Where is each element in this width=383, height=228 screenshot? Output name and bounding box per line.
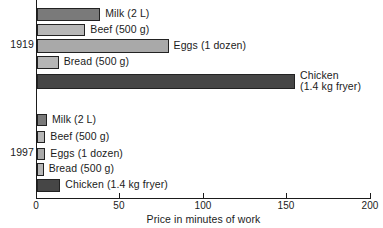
bar-label-1997-milk: Milk (2 L) bbox=[52, 114, 96, 126]
bar-1997-chicken bbox=[37, 179, 60, 192]
x-tick-label-50: 50 bbox=[113, 200, 124, 211]
bar-1919-eggs bbox=[37, 39, 169, 53]
bar-1919-milk bbox=[37, 8, 100, 21]
bar-label-1997-chicken: Chicken (1.4 kg fryer) bbox=[65, 179, 168, 191]
bar-chart: 0 50 100 150 200 Price in minutes of wor… bbox=[0, 0, 383, 228]
x-axis-line bbox=[36, 198, 371, 199]
bar-1997-bread bbox=[37, 163, 44, 176]
bar-1919-beef bbox=[37, 24, 85, 36]
bar-1997-beef bbox=[37, 131, 45, 143]
x-tick-label-0: 0 bbox=[33, 200, 39, 211]
x-tick-label-150: 150 bbox=[278, 200, 295, 211]
x-axis-end-tick bbox=[370, 193, 371, 198]
bar-label-1919-milk: Milk (2 L) bbox=[105, 8, 149, 20]
bar-1997-milk bbox=[37, 114, 47, 126]
x-tick-label-100: 100 bbox=[195, 200, 212, 211]
bar-1919-bread bbox=[37, 56, 59, 69]
x-tick-50 bbox=[119, 193, 120, 198]
x-tick-label-200: 200 bbox=[362, 200, 379, 211]
group-label-1919: 1919 bbox=[2, 38, 34, 50]
x-tick-100 bbox=[203, 193, 204, 198]
bar-label-1997-beef: Beef (500 g) bbox=[50, 131, 109, 143]
bar-label-1919-beef: Beef (500 g) bbox=[90, 24, 149, 36]
group-label-1997: 1997 bbox=[2, 146, 34, 158]
x-tick-150 bbox=[286, 193, 287, 198]
bar-label-1919-eggs: Eggs (1 dozen) bbox=[174, 40, 247, 52]
bar-label-1919-chicken: Chicken (1.4 kg fryer) bbox=[300, 70, 361, 93]
x-tick-0 bbox=[36, 193, 37, 198]
bar-label-1919-bread: Bread (500 g) bbox=[64, 56, 130, 68]
bar-label-1997-bread: Bread (500 g) bbox=[49, 163, 115, 175]
bar-label-1997-eggs: Eggs (1 dozen) bbox=[50, 148, 123, 160]
bar-1919-chicken bbox=[37, 74, 295, 89]
bar-1997-eggs bbox=[37, 148, 45, 160]
x-axis-title: Price in minutes of work bbox=[36, 213, 371, 225]
